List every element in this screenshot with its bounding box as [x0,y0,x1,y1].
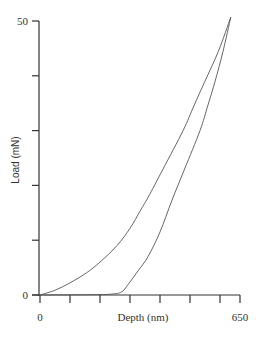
curves [40,17,231,295]
load-depth-chart: 0500650 Depth (nm) Load (mN) [0,0,263,340]
x-tick-label: 650 [232,311,249,323]
axes [32,21,240,296]
x-tick-label: 0 [37,311,43,323]
x-ticks [40,295,240,303]
y-ticks [32,21,39,295]
y-axis-title: Load (mN) [10,136,21,183]
unloading-curve [40,17,231,295]
y-tick-label: 50 [17,15,29,27]
loading-curve [40,17,231,295]
y-tick-label: 0 [23,289,29,301]
x-axis-title: Depth (nm) [117,311,168,324]
